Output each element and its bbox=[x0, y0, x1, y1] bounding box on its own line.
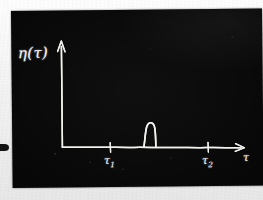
slide-dust-speckle bbox=[11, 9, 263, 188]
y-axis-label: η(τ) bbox=[18, 46, 48, 62]
x-tick-label-tau1: τ1 bbox=[104, 155, 115, 169]
tau1-subscript: 1 bbox=[110, 160, 115, 169]
dark-slide-panel bbox=[11, 9, 263, 188]
left-margin-notch bbox=[0, 144, 9, 151]
tau2-subscript: 2 bbox=[208, 160, 213, 169]
x-tick-label-tau2: τ2 bbox=[202, 155, 213, 169]
screenshot-root: η(τ) τ1 τ2 τ bbox=[0, 0, 263, 200]
slide-vignette bbox=[11, 9, 263, 188]
x-axis-label: τ bbox=[243, 152, 249, 163]
